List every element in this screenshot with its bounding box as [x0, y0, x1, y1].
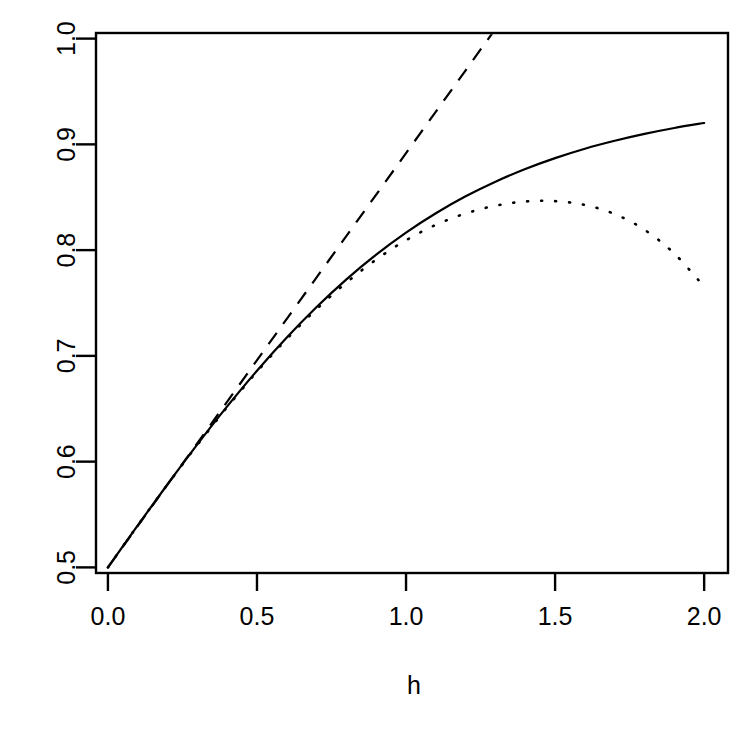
y-tick-label: 0.8 [52, 233, 80, 268]
x-axis-tick-labels: 0.00.51.01.52.0 [91, 602, 722, 630]
series-quadratic-approximation [108, 201, 704, 568]
x-tick-label: 1.0 [389, 602, 424, 630]
plot-figure: 0.00.51.01.52.0 0.50.60.70.80.91.0 h [0, 0, 749, 729]
y-tick-label: 0.5 [52, 550, 80, 585]
y-tick-label: 1.0 [52, 21, 80, 56]
x-axis-title: h [407, 671, 421, 699]
y-tick-label: 0.6 [52, 444, 80, 479]
x-tick-label: 2.0 [687, 602, 722, 630]
y-tick-label: 0.9 [52, 127, 80, 162]
x-axis-ticks [108, 573, 704, 591]
y-axis-ticks [76, 39, 96, 568]
y-tick-label: 0.7 [52, 338, 80, 373]
plot-box [96, 33, 728, 573]
plot-canvas: 0.00.51.01.52.0 0.50.60.70.80.91.0 h [0, 0, 749, 729]
x-tick-label: 0.0 [91, 602, 126, 630]
y-axis-tick-labels: 0.50.60.70.80.91.0 [52, 21, 80, 585]
x-tick-label: 0.5 [240, 602, 275, 630]
data-series-layer [108, 33, 704, 567]
x-tick-label: 1.5 [538, 602, 573, 630]
series-exact [108, 123, 704, 567]
